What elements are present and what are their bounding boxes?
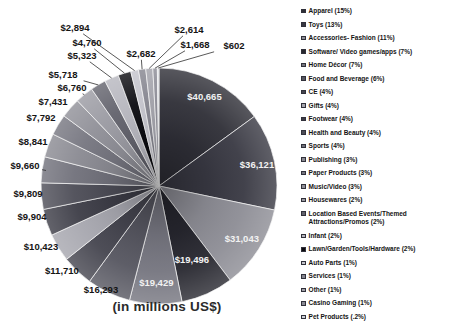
slice-value-label-lawn-garden-tools-hardware: $4,760 [72,37,101,48]
legend-marker-icon [301,144,306,149]
legend-marker-icon [301,103,306,108]
slice-value-label-software-video-games-apps: $19,496 [175,254,209,265]
legend-item-accessories-fashion: Accessories- Fashion (11%) [301,34,453,43]
legend-item-housewares: Housewares (2%) [301,196,453,205]
label-leader-line [90,62,112,78]
slice-value-label-infant: $5,323 [67,50,96,61]
legend-label: Apparel (15%) [309,7,352,16]
slice-value-label-food-and-beverage: $16,293 [84,284,118,295]
legend-label: Other (1%) [309,286,342,295]
legend-item-lawn-garden-tools-hardware: Lawn/Garden/Tools/Hardware (2%) [301,245,453,254]
legend-marker-icon [301,274,306,279]
legend-marker-icon [301,184,306,189]
label-leader-line [83,94,85,95]
legend-item-services: Services (1%) [301,272,453,281]
legend-label: Auto Parts (1%) [309,259,357,268]
slice-value-label-other: $2,614 [174,24,204,35]
legend-item-health-and-beauty: Health and Beauty (4%) [301,129,453,138]
legend-item-casino-gaming: Casino Gaming (1%) [301,299,453,308]
legend-item-location-based-events-themed-attractions: Location Based Events/Themed Attractions… [301,210,453,228]
legend-marker-icon [301,247,306,252]
legend-marker-icon [301,63,306,68]
legend-marker-icon [301,49,306,54]
slice-value-label-publishing: $8,841 [18,136,48,147]
legend-label: Publishing (3%) [309,156,358,165]
legend-marker-icon [301,288,306,293]
slice-value-label-sports: $9,660 [10,160,39,171]
legend-label: Infant (2%) [309,232,342,241]
legend-marker-icon [301,90,306,95]
legend-label: Services (1%) [309,272,351,281]
legend-label: Home Décor (7%) [309,61,363,70]
legend-marker-icon [301,157,306,162]
legend-item-sports: Sports (4%) [301,142,453,151]
slice-value-label-services: $2,682 [126,48,155,59]
legend-label: Housewares (2%) [309,196,363,205]
legend-label: Toys (13%) [309,21,343,30]
legend-label: Food and Beverage (6%) [309,75,385,84]
legend-item-toys: Toys (13%) [301,21,453,30]
label-leader-line [158,52,214,68]
slice-value-label-casino-gaming: $1,668 [180,39,209,50]
legend-marker-icon [301,9,306,14]
legend-label: Paper Products (3%) [309,169,373,178]
slice-value-label-health-and-beauty: $9,809 [13,188,42,199]
legend-item-publishing: Publishing (3%) [301,156,453,165]
legend-label: Accessories- Fashion (11%) [309,34,395,43]
legend-label: Music/Video (3%) [309,183,362,192]
legend-label: Software/ Video games/apps (7%) [309,48,413,57]
legend-item-other: Other (1%) [301,286,453,295]
legend-item-software-video-games-apps: Software/ Video games/apps (7%) [301,48,453,57]
legend-marker-icon [301,117,306,122]
legend-label: Gifts (4%) [309,102,339,111]
legend-marker-icon [301,315,306,320]
slice-value-label-music-video: $7,431 [38,96,68,107]
legend-marker-icon [301,261,306,266]
legend-item-footwear: Footwear (4%) [301,115,453,124]
legend-marker-icon [301,130,306,135]
slice-value-label-housewares: $6,760 [57,82,86,93]
legend-label: Footwear (4%) [309,115,353,124]
legend-marker-icon [301,36,306,41]
legend-marker-icon [301,171,306,176]
legend-marker-icon [301,198,306,203]
legend-marker-icon [301,211,306,216]
chart-title: (in millions US$) [85,299,249,314]
legend-marker-icon [301,301,306,306]
pie-chart-figure: $40,665$36,121$31,043$19,496$19,429$16,2… [0,0,456,330]
label-leader-line [155,51,185,68]
legend-label: Casino Gaming (1%) [309,299,372,308]
slice-value-label-home-d-cor: $19,429 [139,277,173,288]
slice-value-label-auto-parts: $2,894 [60,22,90,33]
legend-marker-icon [301,76,306,81]
slice-value-label-accessories-fashion: $31,043 [225,233,259,244]
legend-item-paper-products: Paper Products (3%) [301,169,453,178]
slice-value-label-footwear: $9,904 [17,211,47,222]
legend-label: CE (4%) [309,88,334,97]
legend-marker-icon [301,234,306,239]
slice-value-label-toys: $36,121 [240,159,275,170]
legend-item-home-d-cor: Home Décor (7%) [301,61,453,70]
legend-item-infant: Infant (2%) [301,232,453,241]
legend-label: Lawn/Garden/Tools/Hardware (2%) [309,245,416,254]
legend-item-auto-parts: Auto Parts (1%) [301,259,453,268]
legend-label: Location Based Events/Themed Attractions… [309,210,453,228]
legend-item-gifts: Gifts (4%) [301,102,453,111]
slice-value-label-location-based-events-themed-attractions: $5,718 [48,69,77,80]
slice-value-label-paper-products: $7,792 [26,112,55,123]
slice-value-label-gifts: $10,423 [24,241,58,252]
slice-value-label-pet-products: $602 [223,40,244,51]
legend-label: Sports (4%) [309,142,345,151]
chart-legend: Apparel (15%)Toys (13%)Accessories- Fash… [301,7,453,326]
legend-item-music-video: Music/Video (3%) [301,183,453,192]
slice-value-label-ce: $11,710 [45,265,79,276]
legend-label: Health and Beauty (4%) [309,129,381,138]
slice-value-label-apparel: $40,665 [187,91,222,102]
legend-label: Pet Products (.2%) [309,313,366,322]
legend-marker-icon [301,22,306,27]
legend-item-ce: CE (4%) [301,88,453,97]
label-leader-line [141,60,142,69]
legend-item-pet-products: Pet Products (.2%) [301,313,453,322]
legend-item-food-and-beverage: Food and Beverage (6%) [301,75,453,84]
legend-item-apparel: Apparel (15%) [301,7,453,16]
